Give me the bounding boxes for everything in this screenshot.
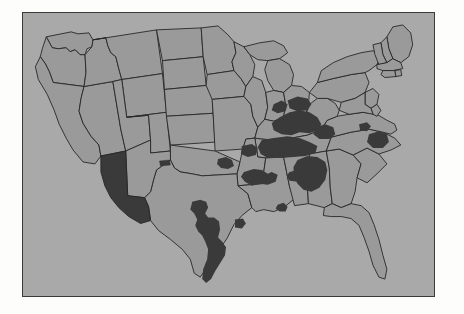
map-panel	[22, 12, 435, 297]
us-map-svg	[23, 13, 434, 296]
region-new-mexico-patch	[159, 160, 170, 166]
state-kansas	[166, 113, 215, 145]
state-minnesota	[201, 26, 236, 75]
state-florida	[323, 204, 387, 279]
map-figure: Present Not present United States distri…	[0, 0, 464, 314]
state-south-dakota	[162, 57, 206, 90]
state-wyoming	[122, 74, 167, 118]
state-north-dakota	[157, 28, 204, 61]
region-texas-gulf-patch	[235, 219, 246, 229]
state-layer-base	[35, 25, 412, 279]
state-connecticut	[381, 71, 396, 78]
state-nebraska	[164, 85, 213, 116]
